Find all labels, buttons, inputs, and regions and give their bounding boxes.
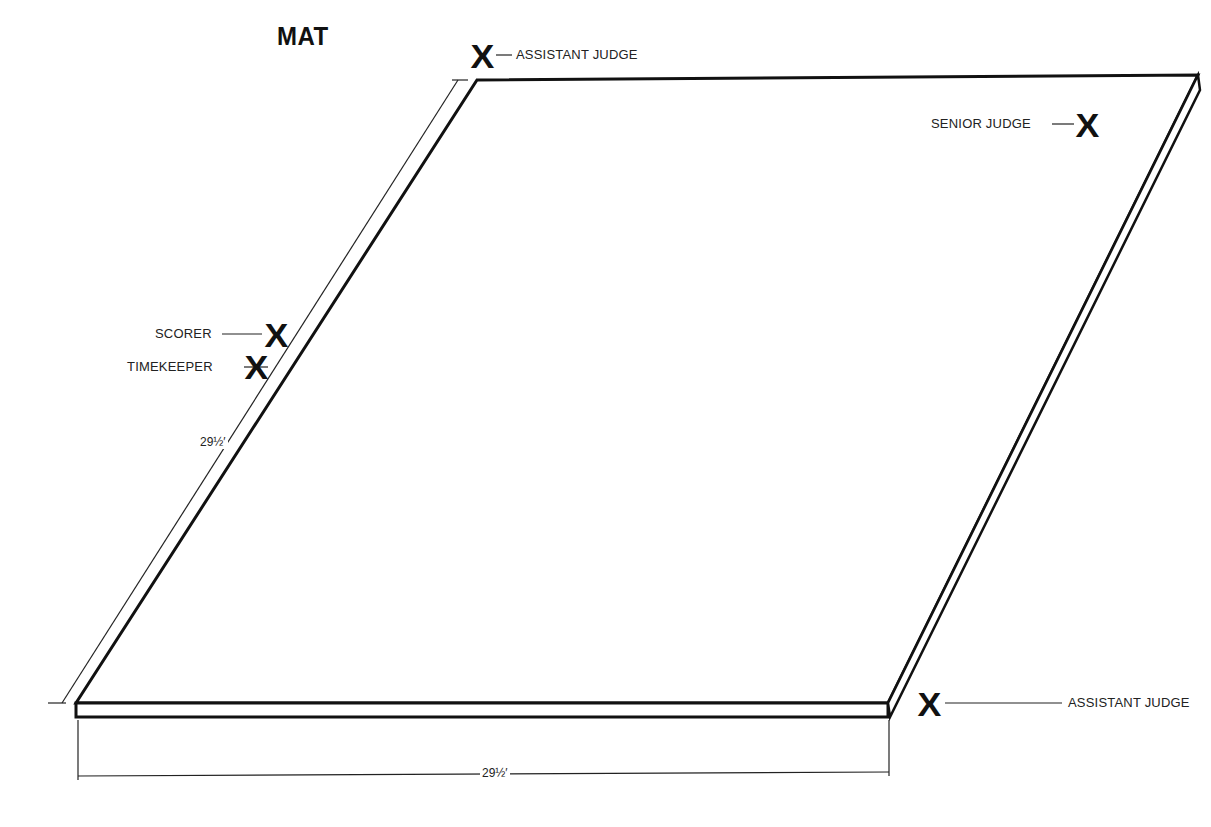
side-dimension-label: 29½′: [198, 435, 228, 449]
mat-top-surface: [76, 75, 1198, 703]
assistant-judge-top-label: ASSISTANT JUDGE: [516, 47, 638, 62]
scorer-label: SCORER: [155, 326, 212, 341]
bottom-dimension-label: 29½′: [480, 766, 510, 780]
diagram-title: MAT: [277, 21, 329, 52]
senior-judge-label: SENIOR JUDGE: [931, 116, 1031, 131]
timekeeper-marker: X: [244, 350, 268, 384]
mat-front-edge: [76, 703, 888, 717]
timekeeper-label: TIMEKEEPER: [127, 359, 213, 374]
assistant-judge-bottom-marker: X: [917, 687, 941, 721]
senior-judge-marker: X: [1075, 108, 1099, 142]
assistant-judge-top-marker: X: [470, 39, 494, 73]
assistant-judge-bottom-label: ASSISTANT JUDGE: [1068, 695, 1190, 710]
scorer-marker: X: [264, 318, 288, 352]
